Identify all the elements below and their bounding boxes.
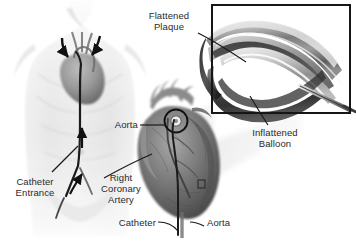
label-inflattened-balloon-line1: Inflattened [240,127,310,138]
heart-great-vessels [150,78,194,110]
medical-illustration: Flattened Plaque Inflattened Balloon Cat… [0,0,356,249]
label-rca-line1: Right [92,172,150,183]
label-catheter: Catheter [96,217,156,228]
label-rca-line2: Coronary [92,183,150,194]
leader-aorta-lower [190,222,204,226]
heart-panel [138,78,221,238]
label-aorta-upper: Aorta [96,119,138,130]
balloon-inset [199,5,356,123]
illustration-canvas [0,0,356,249]
label-catheter-entrance-line2: Entrance [6,187,64,198]
label-flattened-plaque: Flattened Plaque [138,10,200,32]
label-rca-line3: Artery [92,194,150,205]
label-flattened-plaque-line2: Plaque [138,21,200,32]
label-right-coronary-artery: Right Coronary Artery [92,172,150,205]
label-flattened-plaque-line1: Flattened [138,10,200,21]
label-catheter-entrance-line1: Catheter [6,176,64,187]
label-inflattened-balloon-line2: Balloon [240,138,310,149]
leader-catheter [158,222,178,231]
label-catheter-entrance: Catheter Entrance [6,176,64,198]
label-aorta-lower: Aorta [207,217,230,228]
label-inflattened-balloon: Inflattened Balloon [240,127,310,149]
